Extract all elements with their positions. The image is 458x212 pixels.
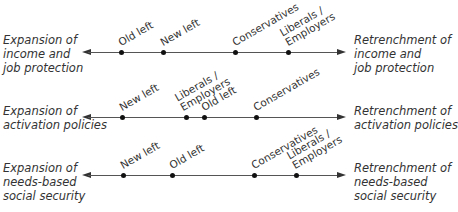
actor-label: Old left xyxy=(168,142,207,171)
actor-label: Conservatives xyxy=(252,66,322,113)
left-label: Expansion of activation policies xyxy=(3,104,107,132)
right-label: Retrenchment of needs-based social secur… xyxy=(354,161,451,203)
actor-dot xyxy=(119,50,124,55)
axis-line xyxy=(88,117,340,118)
actor-dot xyxy=(233,50,238,55)
right-label: Retrenchment of income and job protectio… xyxy=(354,33,451,75)
actor-dot xyxy=(121,173,126,178)
actor-dot xyxy=(294,173,299,178)
actor-label: New left xyxy=(159,17,202,48)
actor-dot xyxy=(120,115,125,120)
actor-dot xyxy=(286,50,291,55)
actor-label: Old left xyxy=(117,19,156,48)
right-label: Retrenchment of activation policies xyxy=(354,104,458,132)
axis-line xyxy=(88,52,340,53)
arrow-right-icon xyxy=(337,49,346,55)
actor-dot xyxy=(161,50,166,55)
left-label: Expansion of income and job protection xyxy=(3,33,83,75)
left-label: Expansion of needs-based social security xyxy=(3,161,85,203)
actor-dot xyxy=(202,115,207,120)
actor-dot xyxy=(170,173,175,178)
actor-dot xyxy=(184,115,189,120)
actor-dot xyxy=(252,173,257,178)
arrow-right-icon xyxy=(337,114,346,120)
arrow-right-icon xyxy=(337,172,346,178)
actor-label: New left xyxy=(119,140,162,171)
actor-dot xyxy=(254,115,259,120)
actor-label: New left xyxy=(118,82,161,113)
